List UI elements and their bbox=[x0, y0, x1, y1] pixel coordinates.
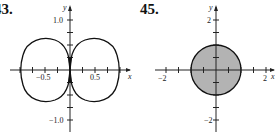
figures: y x −0.5 0.5 1.0 −1.0 bbox=[0, 0, 275, 137]
left-x-neg-label: −0.5 bbox=[36, 73, 51, 82]
right-y-pos-label: 2 bbox=[207, 16, 211, 25]
right-y-neg-label: −2 bbox=[204, 116, 213, 125]
left-y-pos-label: 1.0 bbox=[53, 16, 63, 25]
left-plot: y x −0.5 0.5 1.0 −1.0 bbox=[10, 3, 132, 132]
right-plot: y x −2 2 2 −2 bbox=[155, 3, 275, 132]
left-y-axis-label: y bbox=[62, 3, 67, 12]
left-y-neg-label: −1.0 bbox=[49, 116, 64, 125]
left-x-pos-label: 0.5 bbox=[90, 73, 100, 82]
left-x-axis-label: x bbox=[127, 72, 132, 81]
right-x-axis-label: x bbox=[270, 72, 275, 81]
left-y-arrow-icon bbox=[68, 5, 72, 11]
right-x-neg-label: −2 bbox=[158, 74, 167, 83]
right-y-axis-label: y bbox=[208, 3, 213, 12]
right-x-pos-label: 2 bbox=[263, 74, 267, 83]
right-y-arrow-icon bbox=[214, 5, 218, 11]
